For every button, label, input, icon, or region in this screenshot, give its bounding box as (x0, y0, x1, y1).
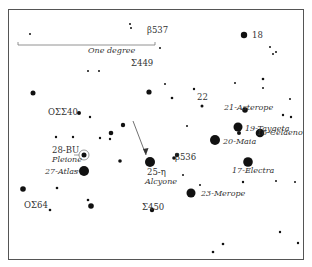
star-chart: One degree β537 18 Σ449 21-Asterope 22 1… (0, 0, 312, 267)
chart-frame (8, 9, 304, 260)
